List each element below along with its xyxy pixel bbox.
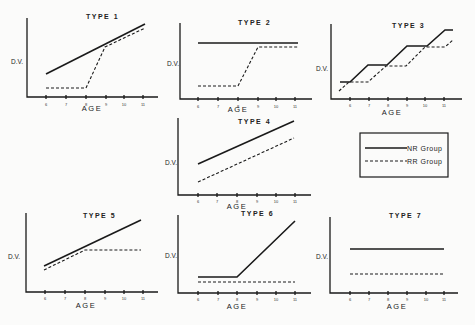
svg-text:9: 9: [257, 104, 260, 109]
chart-figure: TYPE 1 D.V. 6 7 8 9 10 11 AGE TYPE 2 D.V…: [0, 0, 475, 325]
y-axis-label: D.V.: [316, 65, 328, 72]
y-axis-label: D.V.: [165, 159, 177, 166]
svg-text:10: 10: [423, 103, 428, 108]
axes: [180, 23, 312, 99]
panel-type-7: TYPE 7 D.V. 6 7 8 9 10 11 AGE: [316, 212, 458, 311]
axes: [331, 24, 462, 99]
svg-text:7: 7: [65, 102, 68, 107]
nr-line: [340, 30, 453, 82]
x-axis-label: AGE: [387, 302, 407, 311]
svg-text:10: 10: [274, 199, 279, 204]
x-axis-label: AGE: [76, 301, 96, 310]
panel-title: TYPE 6: [241, 210, 274, 217]
svg-text:6: 6: [349, 103, 352, 108]
panel-type-2: TYPE 2 D.V. 6 7 8 9 10 11: [167, 19, 312, 109]
svg-text:10: 10: [274, 297, 279, 302]
svg-text:6: 6: [349, 297, 352, 302]
rr-line: [46, 28, 145, 88]
y-axis-label: D.V.: [316, 253, 328, 260]
svg-text:7: 7: [217, 104, 220, 109]
svg-text:9: 9: [256, 199, 259, 204]
svg-text:6: 6: [45, 102, 48, 107]
axes: [178, 215, 311, 293]
svg-text:11: 11: [293, 297, 298, 302]
svg-text:10: 10: [122, 102, 127, 107]
svg-text:7: 7: [368, 103, 371, 108]
panel-title: TYPE 7: [389, 212, 422, 219]
svg-text:11: 11: [141, 102, 146, 107]
panel-type-5: TYPE 5 D.V. 6 7 8 9 10 11 AGE: [8, 212, 158, 310]
svg-text:10: 10: [122, 296, 127, 301]
y-axis-label: D.V.: [165, 252, 177, 259]
rr-line: [198, 47, 298, 86]
x-axis-label: AGE: [227, 302, 247, 311]
panel-title: TYPE 5: [83, 212, 116, 219]
svg-text:7: 7: [368, 297, 371, 302]
panel-title: TYPE 4: [238, 118, 271, 125]
svg-text:6: 6: [197, 297, 200, 302]
legend: NR Group RR Group: [360, 133, 448, 177]
svg-text:10: 10: [424, 297, 429, 302]
svg-text:10: 10: [274, 104, 279, 109]
panel-type-6: TYPE 6 D.V. 6 7 8 9 10 11 AGE: [165, 210, 311, 311]
nr-line: [198, 221, 295, 277]
legend-box: [360, 133, 448, 177]
svg-text:7: 7: [216, 199, 219, 204]
svg-text:9: 9: [256, 297, 259, 302]
panel-title: TYPE 2: [238, 19, 271, 26]
nr-line: [44, 220, 141, 266]
panel-type-1: TYPE 1 D.V. 6 7 8 9 10 11 AGE: [11, 13, 158, 113]
svg-text:11: 11: [293, 199, 298, 204]
axes: [27, 18, 158, 97]
svg-text:11: 11: [293, 104, 298, 109]
axes: [330, 217, 458, 293]
rr-line: [339, 40, 453, 91]
svg-text:6: 6: [197, 104, 200, 109]
svg-text:11: 11: [442, 297, 447, 302]
legend-rr-label: RR Group: [407, 158, 443, 166]
nr-line: [46, 24, 145, 74]
svg-text:6: 6: [44, 296, 47, 301]
svg-text:7: 7: [64, 296, 67, 301]
svg-text:9: 9: [104, 296, 107, 301]
rr-line: [44, 250, 141, 270]
panel-title: TYPE 3: [392, 22, 425, 29]
svg-text:6: 6: [197, 199, 200, 204]
x-axis-label: AGE: [228, 105, 248, 114]
panel-type-3: TYPE 3 D.V. 6 7 8 9 10 11 AGE: [316, 22, 462, 117]
panel-title: TYPE 1: [86, 13, 119, 20]
svg-text:7: 7: [217, 297, 220, 302]
legend-nr-label: NR Group: [407, 145, 443, 153]
nr-line: [198, 121, 294, 164]
y-axis-label: D.V.: [11, 58, 23, 65]
svg-text:9: 9: [406, 103, 409, 108]
axes: [26, 213, 158, 292]
y-axis-label: D.V.: [167, 60, 179, 67]
axes: [178, 118, 311, 195]
rr-line: [198, 138, 294, 182]
svg-text:9: 9: [105, 102, 108, 107]
y-axis-label: D.V.: [8, 253, 20, 260]
x-axis-label: AGE: [82, 104, 102, 113]
svg-text:11: 11: [442, 103, 447, 108]
x-axis-label: AGE: [382, 108, 402, 117]
panel-type-4: AGE TYPE 4 D.V. 6 7 8 9 10 11 AGE: [165, 105, 311, 211]
svg-text:11: 11: [141, 296, 146, 301]
